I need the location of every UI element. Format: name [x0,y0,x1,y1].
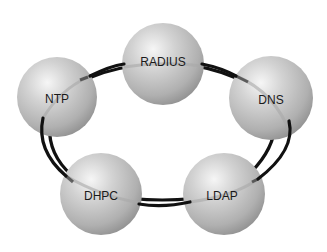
ring-diagram: RADIUS DNS LDAP DHPC NTP [0,0,327,252]
node-label-ldap: LDAP [206,189,237,203]
node-label-radius: RADIUS [140,55,185,69]
node-label-ntp: NTP [45,92,69,106]
node-label-dns: DNS [258,93,283,107]
node-label-dhpc: DHPC [84,189,118,203]
